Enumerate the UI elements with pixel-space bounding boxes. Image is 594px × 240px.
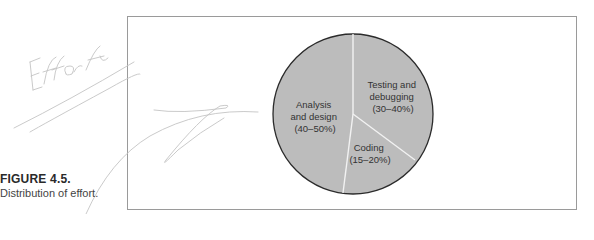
- slice-label-testing: Testing and debugging (30–40%): [367, 79, 418, 114]
- figure-number: FIGURE 4.5.: [0, 172, 98, 186]
- figure-caption: FIGURE 4.5. Distribution of effort.: [0, 172, 98, 199]
- pie-chart: Testing and debugging (30–40%) Coding (1…: [273, 34, 433, 194]
- slice-label-coding: Coding (15–20%): [349, 142, 390, 165]
- figure-caption-text: Distribution of effort.: [0, 187, 98, 199]
- slice-label-analysis: Analysis and design (40–50%): [290, 99, 339, 134]
